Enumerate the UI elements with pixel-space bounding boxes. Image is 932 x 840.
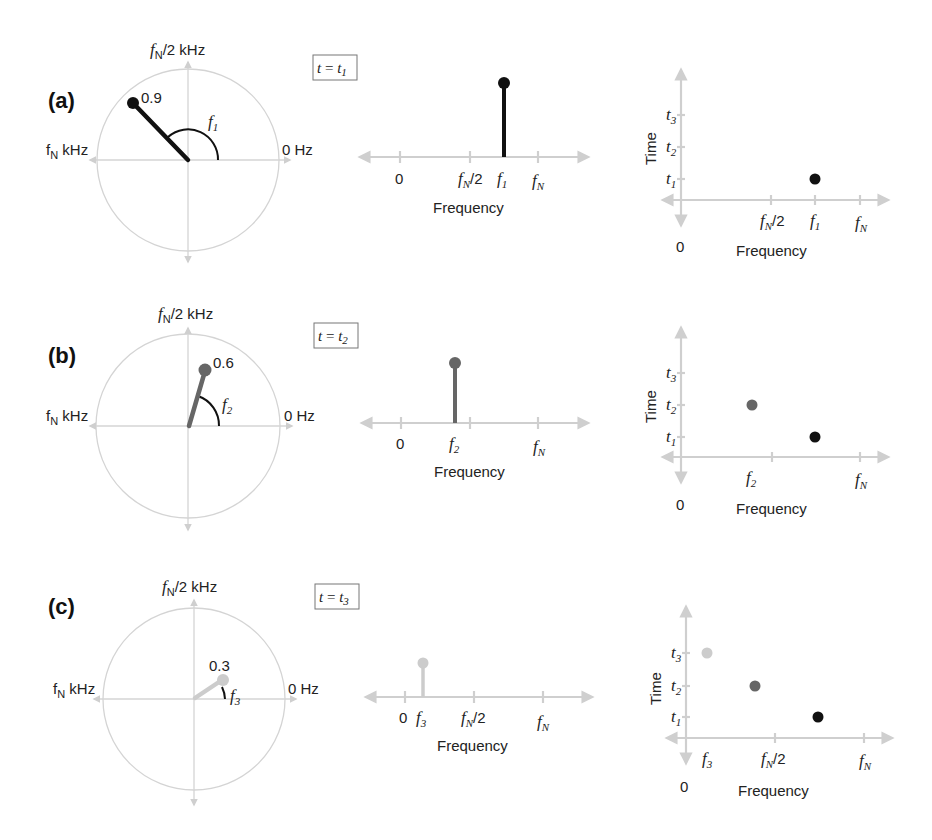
svg-text:fN: fN [537, 712, 550, 733]
panel-label: (c) [48, 594, 75, 619]
svg-text:0: 0 [396, 435, 404, 452]
top-label: fN/2 kHz [150, 40, 205, 61]
phasor-tip [199, 364, 212, 377]
y-axis-label: Time [647, 672, 664, 705]
svg-text:f3: f3 [416, 708, 427, 729]
time-box: t = t3 [315, 584, 359, 609]
point-t1 [810, 174, 821, 185]
right-label: 0 Hz [288, 680, 319, 697]
phasor-tip [217, 674, 229, 686]
y-axis-label: Time [642, 390, 659, 423]
point-t2 [750, 681, 761, 692]
panel-b: (b) fN/2 kHz fN kHz 0 Hz f2 0.6 t = t2 0… [46, 304, 888, 530]
spectrogram-plot: Time t3 t2 t1 f3 fN/2 fN 0 Frequency [647, 607, 892, 799]
tick-label: fN/2 [458, 169, 483, 190]
x-axis-label: Frequency [736, 242, 807, 259]
left-label: fN kHz [46, 141, 88, 161]
spectrogram-plot: Time t1 t2 t3 fN/2 f1 fN 0 Frequency [642, 70, 888, 259]
ytick-t2: t2 [666, 137, 677, 158]
svg-text:t1: t1 [666, 427, 676, 448]
point-t3 [702, 648, 713, 659]
svg-text:f2: f2 [449, 434, 460, 455]
x-axis-label: Frequency [433, 199, 504, 216]
left-label: fN kHz [53, 680, 95, 700]
svg-text:fN: fN [859, 751, 872, 772]
magnitude-label: 0.9 [141, 89, 162, 106]
ytick-t1: t1 [666, 169, 676, 190]
time-box: t = t1 [313, 55, 357, 80]
panel-a: (a) fN/2 kHz fN kHz 0 Hz f1 0.9 t = t1 [46, 40, 888, 262]
magnitude-label: 0.6 [213, 354, 234, 371]
panel-label: (b) [48, 343, 76, 368]
left-label: fN kHz [46, 407, 88, 427]
svg-text:fN/2: fN/2 [761, 749, 786, 770]
svg-text:f3: f3 [702, 749, 713, 770]
angle-label: f3 [230, 686, 241, 707]
svg-text:f2: f2 [746, 468, 757, 489]
phasor-diagram: fN/2 kHz fN kHz 0 Hz f2 0.6 [46, 304, 315, 530]
svg-text:t2: t2 [671, 676, 682, 697]
angle-label: f1 [208, 112, 218, 133]
svg-text:t1: t1 [671, 707, 681, 728]
figure: (a) fN/2 kHz fN kHz 0 Hz f1 0.9 t = t1 [0, 0, 932, 840]
point-t1 [813, 712, 824, 723]
magnitude-label: 0.3 [209, 657, 230, 674]
svg-text:t3: t3 [666, 363, 677, 384]
x-axis-label: Frequency [434, 463, 505, 480]
xtick: f1 [810, 211, 820, 232]
spectrogram-plot: Time t1 t2 t3 f2 fN 0 Frequency [642, 328, 888, 517]
time-box: t = t2 [314, 323, 358, 348]
spectrum-plot: 0 fN/2 f1 fN Frequency [360, 77, 588, 216]
phasor-diagram: fN/2 kHz fN kHz 0 Hz f1 0.9 [46, 40, 313, 262]
angle-arc [198, 396, 219, 426]
svg-text:fN/2: fN/2 [461, 708, 486, 729]
phasor-diagram: fN/2 kHz fN kHz 0 Hz f3 0.3 [53, 577, 319, 805]
xtick: fN [855, 213, 868, 234]
spectrum-plot: 0 f3 fN/2 fN Frequency [366, 658, 592, 755]
y-axis-label: Time [642, 132, 659, 165]
top-label: fN/2 kHz [158, 304, 213, 325]
point-t2 [747, 400, 758, 411]
panel-c: (c) fN/2 kHz fN kHz 0 Hz f3 0.3 t = t3 0… [48, 577, 892, 805]
panel-label: (a) [48, 88, 75, 113]
top-label: fN/2 kHz [162, 577, 217, 598]
point-t1 [810, 432, 821, 443]
svg-text:t2: t2 [666, 395, 677, 416]
svg-text:0: 0 [399, 709, 407, 726]
svg-text:t3: t3 [671, 643, 682, 664]
svg-text:fN: fN [855, 470, 868, 491]
tick-label: 0 [395, 170, 403, 187]
ytick-t3: t3 [666, 105, 677, 126]
right-label: 0 Hz [282, 141, 313, 158]
spectrum-plot: 0 f2 fN Frequency [362, 357, 588, 480]
tick-label: fN [532, 171, 545, 192]
angle-label: f2 [222, 395, 233, 416]
origin-label: 0 [676, 238, 684, 255]
x-axis-label: Frequency [738, 782, 809, 799]
angle-arc [222, 687, 225, 699]
svg-text:fN: fN [533, 437, 546, 458]
right-label: 0 Hz [284, 407, 315, 424]
phasor-tip [127, 97, 139, 109]
svg-text:0: 0 [676, 496, 684, 513]
xtick: fN/2 [760, 211, 785, 232]
tick-label: f1 [497, 169, 507, 190]
svg-text:0: 0 [680, 778, 688, 795]
x-axis-label: Frequency [437, 737, 508, 754]
x-axis-label: Frequency [736, 500, 807, 517]
